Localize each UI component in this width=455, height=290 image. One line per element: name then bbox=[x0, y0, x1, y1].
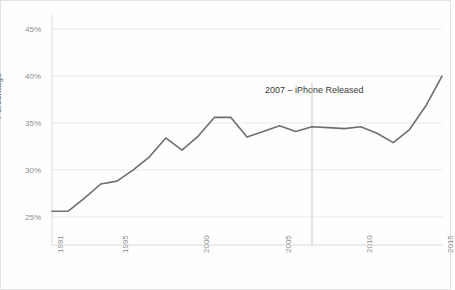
x-tick-label-1991: 1991 bbox=[56, 235, 65, 253]
data-line-percentage bbox=[52, 76, 442, 211]
x-tick-label-1995: 1995 bbox=[121, 235, 130, 253]
x-tick-label-2000: 2000 bbox=[202, 235, 211, 253]
y-tick-label-40: 40% bbox=[1, 72, 41, 81]
gridlines bbox=[52, 29, 442, 217]
annotation-iphone-released: 2007 – iPhone Released bbox=[265, 85, 364, 95]
chart-canvas bbox=[1, 1, 452, 290]
x-tick-label-2005: 2005 bbox=[284, 235, 293, 253]
x-tick-label-2010: 2010 bbox=[365, 235, 374, 253]
y-tick-label-45: 45% bbox=[1, 25, 41, 34]
y-tick-label-30: 30% bbox=[1, 166, 41, 175]
y-tick-label-25: 25% bbox=[1, 213, 41, 222]
axis-lines bbox=[52, 15, 442, 245]
x-tick-label-2015: 2015 bbox=[446, 235, 455, 253]
y-tick-label-35: 35% bbox=[1, 119, 41, 128]
